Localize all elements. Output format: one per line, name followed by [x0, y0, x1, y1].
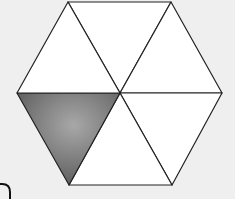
corner-bracket: [0, 184, 10, 199]
hexagon: [17, 2, 222, 185]
hexagon-fraction-diagram: [0, 0, 235, 199]
